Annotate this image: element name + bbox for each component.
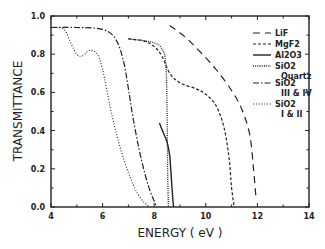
data-series [51,26,256,207]
y-tick-label: 0.4 [31,127,46,136]
x-tick-label: 14 [303,212,315,221]
series-line-sio2-i-ii [51,27,149,207]
x-tick-label: 12 [252,212,263,221]
series-line-mgf2 [128,39,234,207]
legend-label: MgF2 [275,40,300,49]
x-tick-label: 6 [100,212,106,221]
legend-sublabel: I & II [281,110,303,119]
plot-frame [51,16,309,207]
y-tick-label: 0.2 [31,165,45,174]
transmittance-chart: 4681012140.00.20.40.60.81.0 LiFMgF2Al2O3… [0,0,325,249]
x-tick-label: 8 [151,212,157,221]
y-tick-label: 0.0 [31,203,46,212]
legend: LiFMgF2Al2O3SiO2QuartzSiO2III & IVSiO2I … [253,29,312,119]
y-tick-label: 0.8 [31,50,46,59]
legend-sublabel: III & IV [281,89,312,98]
y-axis-title: TRANSMITTANCE [11,61,25,163]
legend-label: SiO2 [275,79,296,88]
series-line-sio2-iii-iv [51,27,157,207]
y-tick-label: 0.6 [31,88,46,97]
legend-label: SiO2 [275,100,296,109]
x-tick-label: 4 [48,212,54,221]
x-tick-label: 10 [200,212,212,221]
legend-label: LiF [275,29,288,38]
x-axis-title: ENERGY ( eV ) [138,226,223,240]
legend-label: Al2O3 [275,51,302,60]
series-line-lif [170,26,256,200]
series-line-al2o3 [159,123,173,207]
plot-axes: 4681012140.00.20.40.60.81.0 [31,12,315,221]
y-tick-label: 1.0 [31,12,46,21]
legend-label: SiO2 [275,62,296,71]
